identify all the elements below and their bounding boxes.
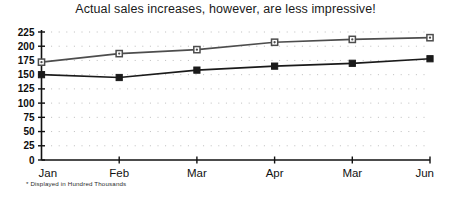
series-marker-center bbox=[273, 41, 275, 43]
series-marker-center bbox=[429, 37, 431, 39]
y-axis-tick-labels: 0255075100125150175200225 bbox=[18, 27, 35, 166]
x-axis bbox=[42, 157, 431, 164]
series-line bbox=[42, 59, 431, 78]
grid-lines bbox=[44, 32, 431, 146]
y-axis-tick-label: 175 bbox=[18, 55, 35, 66]
data-series-group bbox=[38, 35, 433, 81]
series-line bbox=[42, 38, 431, 62]
x-axis-tick-label: Jan bbox=[39, 167, 58, 179]
series-marker bbox=[38, 72, 44, 78]
series-marker bbox=[349, 60, 355, 66]
series-marker-center bbox=[351, 38, 353, 40]
series-marker bbox=[194, 67, 200, 73]
y-axis-tick-label: 100 bbox=[18, 98, 35, 109]
x-axis-tick-label: Apr bbox=[266, 167, 284, 179]
series-marker-center bbox=[196, 48, 198, 50]
series-marker bbox=[427, 56, 433, 62]
y-axis-tick-label: 0 bbox=[29, 155, 35, 166]
y-axis bbox=[38, 30, 45, 160]
y-axis-tick-label: 125 bbox=[18, 83, 35, 94]
y-axis-tick-label: 50 bbox=[23, 126, 35, 137]
y-axis-tick-label: 200 bbox=[18, 41, 35, 52]
x-axis-tick-label: Jun bbox=[415, 167, 434, 179]
x-axis-tick-labels: JanFebMarAprMarJun bbox=[39, 167, 435, 179]
series-marker-center bbox=[118, 52, 120, 54]
x-axis-tick-label: Mar bbox=[342, 167, 362, 179]
y-axis-tick-label: 75 bbox=[23, 112, 35, 123]
y-axis-tick-label: 225 bbox=[18, 27, 35, 38]
series-marker bbox=[116, 74, 122, 80]
series-marker-center bbox=[40, 61, 42, 63]
chart-container: Actual sales increases, however, are les… bbox=[0, 0, 451, 201]
chart-footnote: * Displayed in Hundred Thousands bbox=[26, 180, 126, 187]
y-axis-tick-label: 25 bbox=[23, 140, 35, 151]
y-axis-tick-label: 150 bbox=[18, 69, 35, 80]
series-marker bbox=[272, 63, 278, 69]
x-axis-tick-label: Mar bbox=[187, 167, 207, 179]
line-chart-plot: 0255075100125150175200225 JanFebMarAprMa… bbox=[0, 0, 451, 201]
x-axis-tick-label: Feb bbox=[109, 167, 129, 179]
